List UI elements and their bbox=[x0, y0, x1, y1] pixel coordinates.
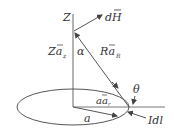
radius-vector bbox=[73, 107, 117, 116]
current-loop-diagram: Z dH Za z α Ra R θ aa r a Idl bbox=[0, 0, 174, 135]
a-vector-label: aa r bbox=[96, 95, 111, 107]
Idl-leader bbox=[128, 112, 146, 118]
z-vector-label: Za z bbox=[47, 45, 67, 59]
radius-label: a bbox=[84, 112, 91, 125]
svg-text:Za: Za bbox=[47, 45, 62, 58]
svg-text:r: r bbox=[108, 101, 111, 107]
svg-text:R: R bbox=[115, 52, 121, 59]
R-vector-label: Ra R bbox=[99, 45, 121, 59]
alpha-label: α bbox=[77, 45, 85, 58]
dH-label: dH bbox=[105, 10, 122, 24]
dH-vector bbox=[74, 15, 102, 31]
svg-text:aa: aa bbox=[96, 95, 108, 106]
current-element-label: Idl bbox=[147, 114, 163, 127]
svg-text:dH: dH bbox=[105, 11, 122, 24]
theta-label: θ bbox=[133, 83, 140, 96]
svg-text:Ra: Ra bbox=[99, 45, 115, 58]
svg-text:z: z bbox=[62, 52, 67, 59]
theta-arrow bbox=[133, 96, 135, 104]
z-axis-label: Z bbox=[62, 11, 71, 24]
